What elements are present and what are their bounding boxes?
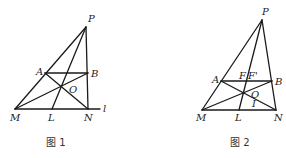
segment-PN	[262, 20, 276, 110]
label-l: l	[103, 103, 106, 114]
label-N: N	[83, 112, 94, 123]
caption-figure-2: 图 2	[230, 137, 250, 148]
segment-MB	[202, 81, 272, 110]
segment-PN	[86, 27, 88, 109]
caption-figure-1: 图 1	[46, 137, 66, 148]
segment-MP	[15, 27, 86, 109]
label-M: M	[9, 112, 21, 123]
label-L: L	[234, 112, 242, 123]
label-L: L	[47, 112, 55, 123]
figure-1: P A B O M L N l 图 1	[9, 13, 106, 148]
label-A: A	[211, 74, 219, 85]
label-F-prime: F'	[247, 70, 258, 81]
label-P: P	[87, 13, 95, 24]
label-B: B	[274, 76, 282, 87]
label-P: P	[261, 6, 269, 17]
label-O: O	[69, 84, 77, 95]
segment-AN	[221, 81, 276, 110]
segment-PL	[52, 27, 86, 109]
label-M: M	[195, 112, 207, 123]
diagram-canvas: P A B O M L N l 图 1 P A B F F' O M L I N…	[0, 0, 286, 158]
label-N: N	[273, 112, 284, 123]
label-B: B	[90, 68, 98, 79]
label-A: A	[35, 66, 43, 77]
label-F: F	[238, 70, 247, 81]
figure-2: P A B F F' O M L I N 图 2	[195, 6, 284, 148]
